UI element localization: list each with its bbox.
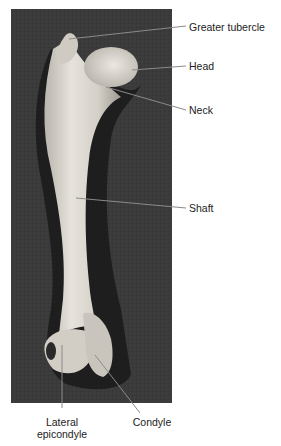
- label-neck: Neck: [189, 104, 213, 116]
- leader-line-head: [132, 66, 186, 70]
- label-shaft: Shaft: [189, 202, 214, 214]
- leader-line-condyle: [95, 355, 140, 413]
- label-head: Head: [189, 60, 214, 72]
- leader-line-shaft: [76, 198, 186, 208]
- label-lateral-epicondyle: Lateral epicondyle: [37, 416, 87, 440]
- label-lateral-epicondyle-line1: Lateral: [37, 416, 87, 428]
- leader-line-greater-tubercle: [69, 26, 186, 39]
- label-lateral-epicondyle-line2: epicondyle: [37, 428, 87, 440]
- label-condyle: Condyle: [133, 416, 172, 428]
- leader-line-neck: [106, 87, 186, 110]
- label-greater-tubercle: Greater tubercle: [189, 21, 265, 33]
- humerus-figure: Greater tubercle Head Neck Shaft Lateral…: [0, 0, 281, 446]
- leader-lines: [0, 0, 281, 446]
